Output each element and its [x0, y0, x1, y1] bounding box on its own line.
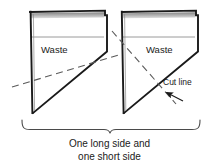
- right-waste-label: Waste: [146, 44, 173, 55]
- caption-line-1: One long side and: [69, 138, 150, 149]
- left-piece-group: Waste: [12, 11, 122, 113]
- right-piece-group: Waste Cut line: [112, 11, 198, 113]
- right-top-shade-band: [123, 12, 195, 18]
- bottom-brace: [22, 120, 200, 133]
- cut-line-label: Cut line: [163, 77, 192, 87]
- caption-group: One long side and one short side: [69, 138, 150, 162]
- brace-path: [22, 120, 200, 133]
- caption-line-2: one short side: [78, 151, 141, 162]
- left-waste-label: Waste: [41, 44, 68, 55]
- diagram-canvas: Waste Waste Cut line: [0, 0, 219, 167]
- left-top-shade-band: [31, 12, 104, 18]
- cutting-layout-diagram: Waste Waste Cut line: [0, 0, 219, 167]
